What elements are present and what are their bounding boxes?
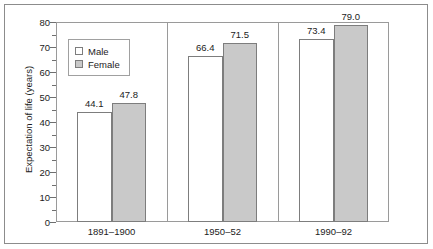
y-tick-minor	[52, 60, 56, 61]
category-separator	[278, 22, 279, 222]
y-axis-tick-labels: 80706050403020100	[26, 22, 50, 222]
legend-label-female: Female	[88, 59, 120, 70]
category-separator	[167, 22, 168, 222]
y-tick-minor	[52, 35, 56, 36]
y-tick-label: 30	[39, 142, 50, 153]
bar-value-label: 71.5	[231, 29, 250, 40]
y-tick-major	[50, 72, 56, 73]
y-tick-major	[50, 222, 56, 223]
y-tick-minor	[52, 185, 56, 186]
female-swatch-icon	[75, 60, 83, 68]
y-tick-label: 40	[39, 117, 50, 128]
y-tick-label: 20	[39, 167, 50, 178]
bar-male-3	[299, 39, 334, 223]
bar-male-1	[77, 112, 112, 222]
legend-label-male: Male	[88, 46, 109, 57]
bar-male-2	[188, 56, 223, 222]
bar-value-label: 66.4	[196, 42, 215, 53]
y-tick-label: 70	[39, 42, 50, 53]
y-tick-minor	[52, 135, 56, 136]
y-tick-minor	[52, 110, 56, 111]
y-tick-major	[50, 172, 56, 173]
y-tick-major	[50, 22, 56, 23]
x-axis-tick-labels: 1891–19001950–521990–92	[56, 226, 389, 242]
legend-item-male: Male	[75, 45, 120, 57]
x-tick-label: 1891–1900	[88, 226, 136, 237]
chart-figure: Expectation of life (years) 807060504030…	[0, 0, 433, 249]
y-tick-label: 60	[39, 67, 50, 78]
legend-item-female: Female	[75, 58, 120, 70]
x-tick-label: 1990–92	[315, 226, 352, 237]
y-tick-minor	[52, 160, 56, 161]
chart-legend: Male Female	[68, 39, 130, 76]
y-tick-label: 50	[39, 92, 50, 103]
bar-value-label: 44.1	[85, 98, 104, 109]
y-tick-minor	[52, 85, 56, 86]
male-swatch-icon	[75, 47, 83, 55]
y-tick-major	[50, 122, 56, 123]
bar-value-label: 79.0	[342, 11, 361, 22]
bar-female-1	[112, 103, 147, 223]
bar-value-label: 47.8	[120, 89, 139, 100]
y-tick-label: 80	[39, 17, 50, 28]
y-tick-minor	[52, 210, 56, 211]
x-tick-label: 1950–52	[204, 226, 241, 237]
y-tick-major	[50, 97, 56, 98]
y-tick-major	[50, 147, 56, 148]
y-tick-major	[50, 47, 56, 48]
y-tick-label: 10	[39, 192, 50, 203]
bar-value-label: 73.4	[307, 25, 326, 36]
bar-female-2	[223, 43, 258, 222]
bar-female-3	[334, 25, 369, 223]
y-tick-major	[50, 197, 56, 198]
